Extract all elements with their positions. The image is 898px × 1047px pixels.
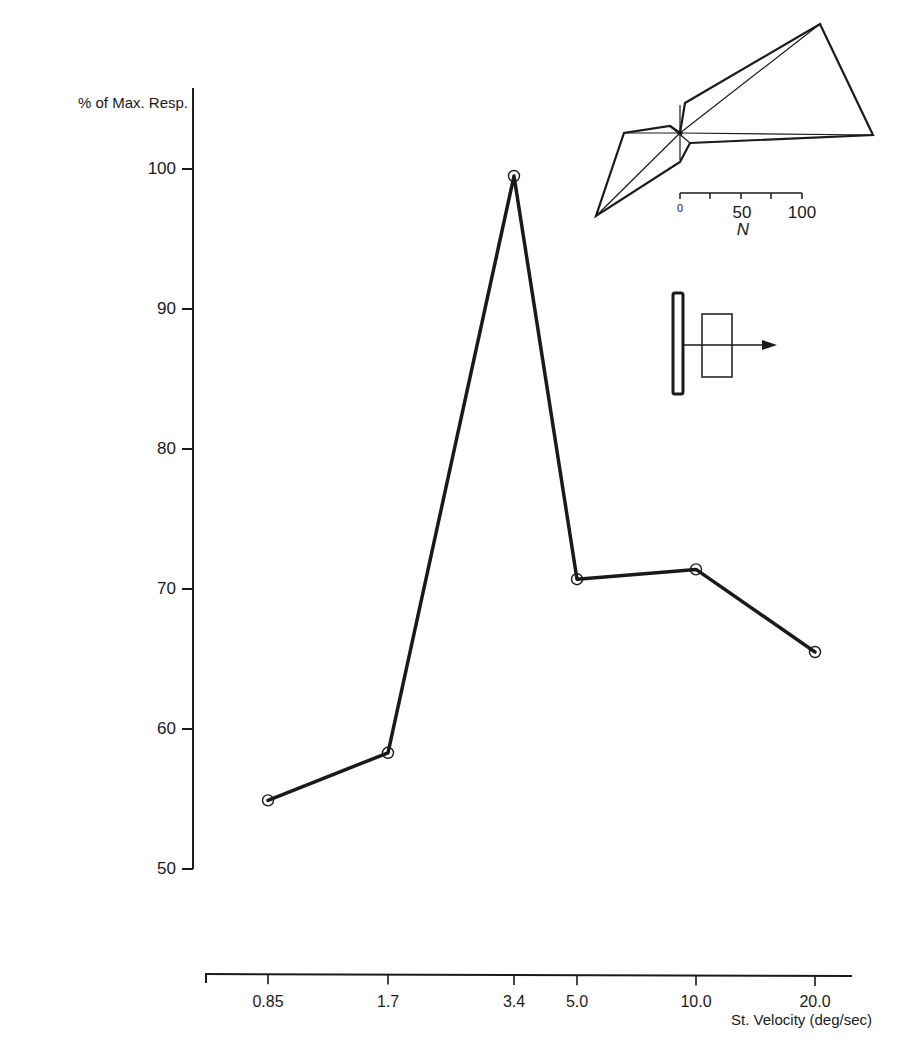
y-tick-label: 70 [157, 579, 176, 598]
x-tick-label: 5.0 [566, 993, 588, 1010]
chart: % of Max. Resp. 1009080706050 0.851.73.4… [0, 0, 898, 1047]
data-line [268, 176, 815, 800]
x-axis-title: St. Velocity (deg/sec) [731, 1011, 872, 1028]
x-tick-label: 10.0 [680, 993, 711, 1010]
x-tick-label: 0.85 [252, 993, 283, 1010]
y-axis: % of Max. Resp. 1009080706050 [78, 88, 193, 878]
x-axis: 0.851.73.45.010.020.0 St. Velocity (deg/… [205, 974, 872, 1028]
scale-label-0: 0 [677, 202, 683, 214]
data-markers [263, 171, 821, 806]
polar-polygon [596, 24, 873, 216]
y-tick-label: 90 [157, 299, 176, 318]
polar-spoke [680, 24, 820, 133]
scale-unit-label: N [737, 220, 750, 239]
y-tick-label: 80 [157, 439, 176, 458]
polar-plot-inset [596, 24, 873, 216]
y-ticks: 1009080706050 [148, 159, 193, 878]
x-tick-label: 3.4 [503, 993, 525, 1010]
polar-center [678, 131, 683, 136]
x-tick-label: 20.0 [799, 993, 830, 1010]
plot-area [263, 171, 821, 806]
x-axis-line [205, 974, 852, 976]
x-ticks: 0.851.73.45.010.020.0 [252, 974, 830, 1010]
y-tick-label: 100 [148, 159, 176, 178]
arrow-right-icon [762, 340, 777, 350]
y-tick-label: 50 [157, 859, 176, 878]
stimulus-bar [673, 293, 683, 394]
x-tick-label: 1.7 [377, 993, 399, 1010]
y-axis-title: % of Max. Resp. [78, 94, 188, 111]
stimulus-direction-icon [673, 293, 777, 394]
scale-label-100: 100 [788, 203, 816, 222]
polar-spoke [680, 133, 873, 135]
polar-spoke [596, 133, 680, 216]
y-tick-label: 60 [157, 719, 176, 738]
